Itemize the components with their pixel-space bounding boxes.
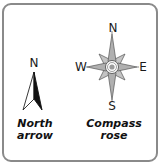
north-arrow-n-label: N bbox=[27, 57, 41, 69]
compass-rose-caption-line2: rose bbox=[82, 130, 146, 142]
north-arrow-caption-line2: arrow bbox=[8, 130, 62, 142]
north-arrow-caption: North arrow bbox=[8, 118, 62, 142]
compass-rose-icon bbox=[86, 31, 139, 101]
compass-north-label: N bbox=[106, 22, 120, 34]
compass-rose-caption: Compass rose bbox=[82, 118, 146, 142]
north-arrow-icon bbox=[23, 72, 42, 110]
compass-south-label: S bbox=[105, 100, 119, 112]
compass-east-label: E bbox=[136, 61, 150, 73]
compass-west-label: W bbox=[74, 61, 88, 73]
